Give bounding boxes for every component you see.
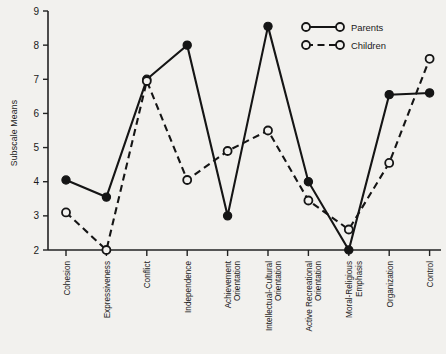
y-axis-tick-label: 2 <box>33 245 39 256</box>
x-axis-label: Orientation <box>274 261 283 301</box>
x-axis-label: Intellectual-Cultural <box>265 261 274 331</box>
x-axis-label: Conflict <box>143 260 152 288</box>
data-point-children <box>224 147 232 155</box>
y-axis-tick-label: 6 <box>33 108 39 119</box>
y-axis-tick-label: 3 <box>33 210 39 221</box>
data-point-children <box>264 127 272 135</box>
x-axis-label: Emphasis <box>355 261 364 297</box>
x-axis-label: Orientation <box>233 261 242 301</box>
legend-marker-left <box>302 41 310 49</box>
y-axis-title: Subscale Means <box>9 100 19 166</box>
x-axis-labels: CohesionExpressivenessConflictIndependen… <box>63 260 436 331</box>
chart-legend: ParentsChildren <box>302 22 386 51</box>
y-axis-tick-label: 4 <box>33 176 39 187</box>
legend-label-parents: Parents <box>351 22 384 33</box>
y-axis-title-group: Subscale Means <box>9 100 19 166</box>
data-point-children <box>385 159 393 167</box>
x-axis-label: Moral-Religious <box>345 261 354 318</box>
data-point-children <box>143 77 151 85</box>
data-point-children <box>62 208 70 216</box>
x-axis-label: Expressiveness <box>103 261 112 318</box>
data-point-children <box>345 226 353 234</box>
data-point-parents <box>385 91 393 99</box>
y-axis: 98765432 <box>33 6 48 256</box>
data-point-children <box>102 246 110 254</box>
legend-marker-left <box>302 23 310 31</box>
x-axis-label: Achievement <box>224 260 233 308</box>
y-axis-tick-label: 5 <box>33 142 39 153</box>
x-axis-label: Active Recreational <box>305 261 314 332</box>
series-line-parents <box>66 26 430 250</box>
chart-container: Subscale Means 98765432 CohesionExpressi… <box>0 0 446 354</box>
data-point-children <box>304 196 312 204</box>
data-point-parents <box>62 176 70 184</box>
data-series-group <box>62 22 434 254</box>
subscale-means-line-chart: Subscale Means 98765432 CohesionExpressi… <box>0 0 446 354</box>
legend-marker-right <box>336 23 344 31</box>
legend-label-children: Children <box>351 40 386 51</box>
data-point-parents <box>426 89 434 97</box>
x-axis-label: Control <box>426 261 435 288</box>
data-point-children <box>426 55 434 63</box>
data-point-parents <box>224 212 232 220</box>
y-axis-tick-label: 8 <box>33 40 39 51</box>
data-point-parents <box>304 178 312 186</box>
y-axis-tick-label: 7 <box>33 74 39 85</box>
x-axis-label: Orientation <box>314 261 323 301</box>
y-axis-tick-label: 9 <box>33 6 39 17</box>
data-point-parents <box>345 246 353 254</box>
legend-marker-right <box>336 41 344 49</box>
x-axis-label: Independence <box>184 261 193 313</box>
x-axis-label: Organization <box>386 261 395 308</box>
data-point-parents <box>183 41 191 49</box>
x-axis-label: Cohesion <box>63 261 72 296</box>
data-point-parents <box>264 22 272 30</box>
data-point-children <box>183 176 191 184</box>
data-point-parents <box>102 193 110 201</box>
